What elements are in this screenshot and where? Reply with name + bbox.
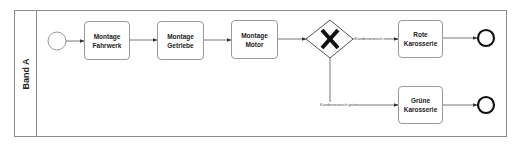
task-label: Karosserie bbox=[404, 39, 438, 48]
edge-label-gruen: Kundenwunsch grün bbox=[320, 102, 356, 107]
task-label: Rote bbox=[404, 30, 438, 39]
flow-gateway-to-gruen[interactable] bbox=[330, 58, 398, 105]
end-event-rot-icon[interactable] bbox=[478, 30, 494, 46]
task-montage-getriebe[interactable]: MontageGetriebe bbox=[157, 21, 204, 60]
task-label: Montage bbox=[241, 31, 268, 40]
task-label: Grüne bbox=[404, 96, 438, 105]
task-label: Montage bbox=[93, 32, 122, 41]
task-rote-karosserie[interactable]: RoteKarosserie bbox=[398, 20, 443, 58]
end-event-gruen-icon[interactable] bbox=[478, 97, 494, 113]
task-label: Motor bbox=[241, 40, 268, 49]
task-label: Karosserie bbox=[404, 105, 438, 114]
task-label: Fahrwerk bbox=[93, 41, 122, 50]
task-montage-fahrwerk[interactable]: MontageFahrwerk bbox=[84, 21, 130, 60]
task-label: Getriebe bbox=[167, 41, 194, 50]
start-event-icon[interactable] bbox=[48, 32, 66, 50]
edge-label-rot: Kundenwunsch rot bbox=[355, 36, 388, 41]
task-label: Montage bbox=[167, 32, 194, 41]
task-gruene-karosserie[interactable]: GrüneKarosserie bbox=[398, 86, 443, 124]
task-montage-motor[interactable]: MontageMotor bbox=[231, 20, 278, 59]
